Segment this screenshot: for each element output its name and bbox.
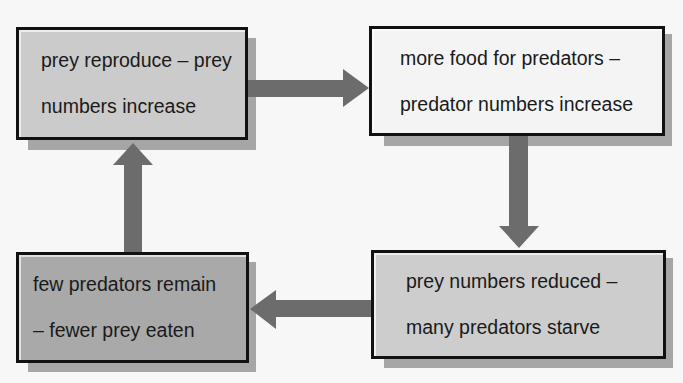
node-prey-reduced: prey numbers reduced – many predators st… <box>371 250 666 359</box>
arrow-left-icon <box>250 290 371 329</box>
node-label-line1: prey reproduce – prey <box>41 49 232 72</box>
arrow-up-icon <box>113 143 153 252</box>
node-label-line2: many predators starve <box>406 316 617 339</box>
node-label: more food for predators – predator numbe… <box>400 24 633 139</box>
node-label: few predators remain – fewer prey eaten <box>33 250 216 365</box>
node-label: prey numbers reduced – many predators st… <box>406 247 617 362</box>
node-label: prey reproduce – prey numbers increase <box>41 26 232 141</box>
node-label-line2: numbers increase <box>41 95 232 118</box>
node-label-line1: few predators remain <box>33 273 216 296</box>
node-label-line1: more food for predators – <box>400 47 633 70</box>
node-few-predators: few predators remain – fewer prey eaten <box>16 252 249 363</box>
node-label-line2: predator numbers increase <box>400 93 633 116</box>
node-label-line2: – fewer prey eaten <box>33 319 216 342</box>
arrow-right-icon <box>247 69 369 107</box>
arrow-down-icon <box>499 135 539 248</box>
predator-prey-cycle-diagram: box4 --> prey reproduce – prey numbers i… <box>0 0 683 383</box>
node-prey-reproduce: prey reproduce – prey numbers increase <box>16 27 248 140</box>
node-more-food: more food for predators – predator numbe… <box>369 26 665 136</box>
node-label-line1: prey numbers reduced – <box>406 270 617 293</box>
